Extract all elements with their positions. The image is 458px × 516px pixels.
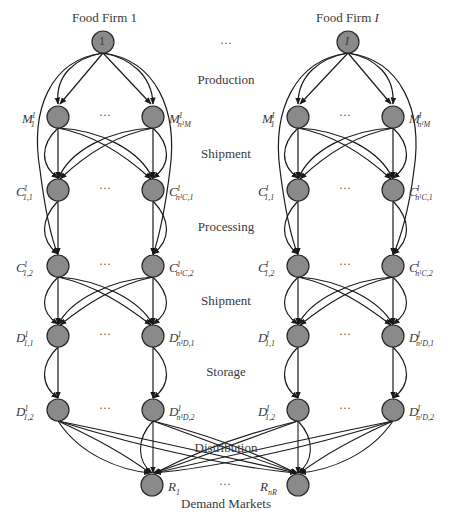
firm1-C1-right-label: C1n¹C,1 (169, 185, 193, 198)
firm1-M-left-label: M11 (22, 112, 35, 125)
firm1-D1-right-label: D1n¹D,1 (169, 331, 195, 344)
firmI-D1-right-label: DInᴵD,1 (409, 331, 434, 344)
firm1-M-right-node (142, 106, 164, 128)
stage-production: Production (197, 72, 254, 88)
row-ellipsis: ··· (99, 108, 111, 123)
firm1-D2-left-node (47, 399, 69, 421)
firm1-C1-left-label: C11,1 (16, 185, 33, 198)
demand-market-RnR-node (287, 474, 309, 496)
demand-markets-ellipsis: ··· (219, 477, 231, 492)
stage-shipment-1: Shipment (201, 146, 251, 162)
firmI-C2-right-node (382, 255, 404, 277)
firm1-D1-left-label: D11,1 (16, 331, 33, 344)
firm1-C2-left-label: C11,2 (16, 261, 33, 274)
firm1-C2-right-label: C1n¹C,2 (169, 261, 193, 274)
firmI-D2-right-label: DInᴵD,2 (409, 405, 434, 418)
firmI-C1-right-label: CInᴵC,1 (409, 185, 433, 198)
firm1-D1-right-node (142, 325, 164, 347)
row-ellipsis: ··· (99, 257, 111, 272)
firmI-C2-right-label: CInᴵC,2 (409, 261, 433, 274)
row-ellipsis: ··· (339, 108, 351, 123)
firm1-C1-right-node (142, 179, 164, 201)
firm1-title: Food Firm 1 (72, 10, 137, 26)
firmI-D2-right-node (382, 399, 404, 421)
demand-markets-title: Demand Markets (181, 496, 271, 512)
demand-market-RnR-label: RnR (260, 480, 277, 493)
row-ellipsis: ··· (99, 181, 111, 196)
row-ellipsis: ··· (339, 327, 351, 342)
firmI-D1-left-label: DI1,1 (258, 331, 275, 344)
firmI-C1-right-node (382, 179, 404, 201)
stage-storage: Storage (206, 364, 246, 380)
stage-distribution: Distribution (195, 440, 258, 456)
firmI-M-left-label: MI1 (262, 112, 275, 125)
row-ellipsis: ··· (99, 327, 111, 342)
firmI-C1-left-label: CI1,1 (258, 185, 274, 198)
firmI-C2-left-label: CI1,2 (258, 261, 274, 274)
row-ellipsis: ··· (339, 257, 351, 272)
firm1-D2-left-label: D11,2 (16, 405, 33, 418)
firmI-M-right-label: MInᴵM (409, 112, 430, 125)
firmI-D1-left-node (287, 325, 309, 347)
firmI-origin-label: I (345, 34, 349, 49)
firm1-D2-right-node (142, 399, 164, 421)
firm1-M-left-node (47, 106, 69, 128)
firmI-C1-left-node (287, 179, 309, 201)
firm1-origin-label: 1 (99, 34, 105, 49)
stage-processing: Processing (198, 219, 254, 235)
firm1-C2-right-node (142, 255, 164, 277)
firm1-C2-left-node (47, 255, 69, 277)
firmI-C2-left-node (287, 255, 309, 277)
firm1-D1-left-node (47, 325, 69, 347)
between-firms-ellipsis: ··· (220, 36, 232, 51)
firmI-D2-left-label: DI1,2 (258, 405, 275, 418)
firm1-D2-right-label: D1n¹D,2 (169, 405, 195, 418)
demand-market-R1-node (141, 474, 163, 496)
firm1-C1-left-node (47, 179, 69, 201)
stage-shipment-2: Shipment (201, 293, 251, 309)
row-ellipsis: ··· (99, 401, 111, 416)
row-ellipsis: ··· (339, 401, 351, 416)
firmI-M-right-node (382, 106, 404, 128)
firm1-M-right-label: M1n¹M (169, 112, 191, 125)
firmI-D1-right-node (382, 325, 404, 347)
firmI-D2-left-node (287, 399, 309, 421)
firmI-title: Food Firm I (316, 10, 379, 26)
firmI-M-left-node (287, 106, 309, 128)
demand-market-R1-label: R1 (168, 480, 180, 493)
row-ellipsis: ··· (339, 181, 351, 196)
